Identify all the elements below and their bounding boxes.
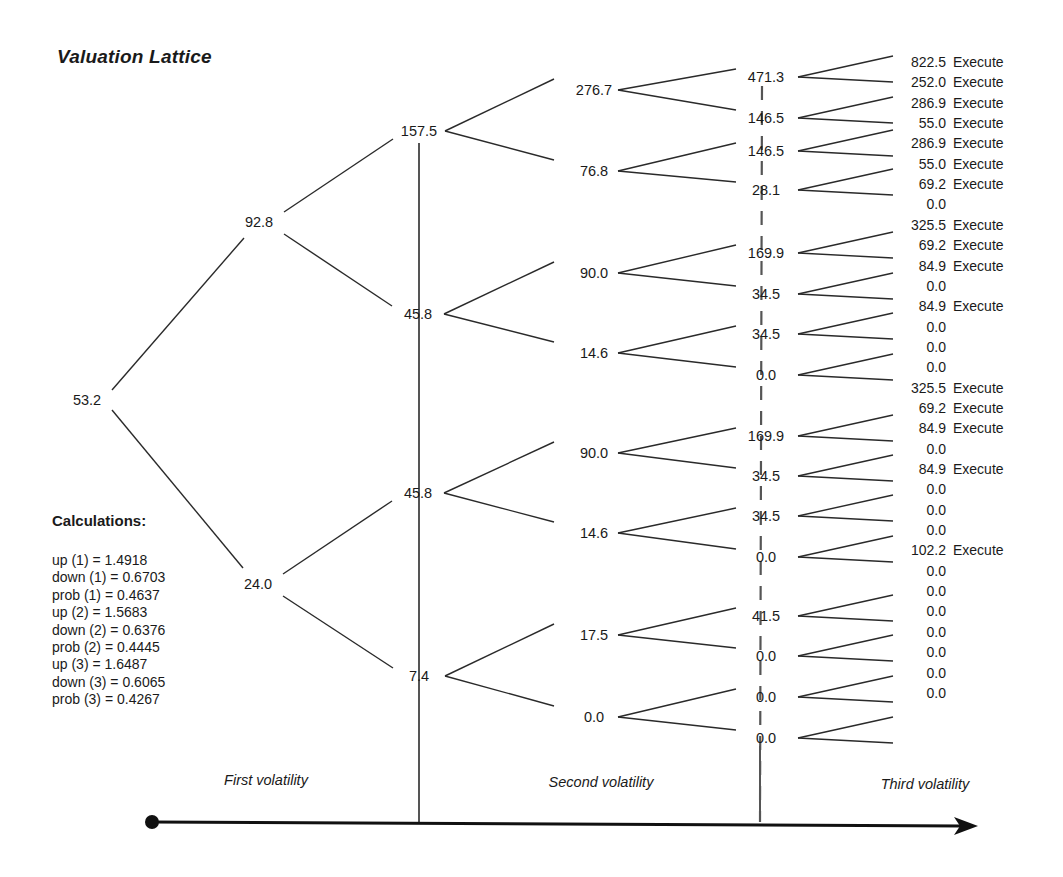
- lattice-edge: [798, 77, 893, 82]
- leaf-action-execute: Execute: [953, 237, 1004, 253]
- leaf-value: 0.0: [927, 196, 947, 212]
- lattice-edge: [798, 595, 893, 616]
- leaf-action-execute: Execute: [953, 156, 1004, 172]
- lattice-edge: [445, 79, 554, 131]
- lattice-edge: [798, 334, 893, 339]
- leaf-value: 84.9: [919, 298, 946, 314]
- lattice-node-level3: 14.6: [580, 345, 608, 361]
- leaf-value: 84.9: [919, 420, 946, 436]
- lattice-edge: [798, 232, 893, 253]
- lattice-edge: [618, 689, 736, 717]
- lattice-node-level2: 7.4: [409, 668, 429, 684]
- lattice-edge: [798, 415, 893, 436]
- leaf-value: 0.0: [927, 502, 947, 518]
- leaf-value: 0.0: [927, 624, 947, 640]
- leaf-action-execute: Execute: [953, 176, 1004, 192]
- leaf-value: 0.0: [927, 583, 947, 599]
- lattice-node-level3: 76.8: [580, 163, 608, 179]
- lattice-edge: [618, 428, 736, 453]
- leaf-value: 0.0: [927, 522, 947, 538]
- leaf-action-execute: Execute: [953, 115, 1004, 131]
- lattice-edge: [798, 354, 893, 375]
- timeline-axis: [145, 815, 978, 835]
- axis-label-first: First volatility: [224, 772, 309, 788]
- lattice-edge: [798, 676, 893, 697]
- lattice-edge: [798, 169, 893, 190]
- lattice-node-level4: 0.0: [756, 367, 776, 383]
- lattice-edge: [798, 118, 893, 123]
- leaf-value: 0.0: [927, 644, 947, 660]
- leaf-value: 55.0: [919, 156, 946, 172]
- leaf-value: 0.0: [927, 685, 947, 701]
- lattice-edge: [618, 717, 736, 730]
- lattice-edge: [798, 253, 893, 258]
- lattice-node-level3: 14.6: [580, 525, 608, 541]
- leaf-value: 325.5: [911, 380, 946, 396]
- lattice-edge: [618, 90, 736, 110]
- leaf-action-execute: Execute: [953, 420, 1004, 436]
- leaf-value: 84.9: [919, 461, 946, 477]
- lattice-node-level4: 169.9: [748, 428, 784, 444]
- leaf-action-execute: Execute: [953, 298, 1004, 314]
- lattice-edge: [618, 245, 736, 273]
- leaf-value: 0.0: [927, 278, 947, 294]
- lattice-edge: [798, 635, 893, 656]
- lattice-edge: [798, 616, 893, 621]
- lattice-node-level3: 0.0: [584, 709, 604, 725]
- leaf-value: 69.2: [919, 237, 946, 253]
- lattice-edge: [444, 262, 554, 314]
- lattice-node-level2: 45.8: [404, 306, 432, 322]
- lattice-edge: [283, 501, 392, 574]
- lattice-edge: [798, 313, 893, 334]
- leaf-value: 69.2: [919, 176, 946, 192]
- lattice-node-level4: 0.0: [756, 549, 776, 565]
- lattice-edge: [283, 596, 393, 668]
- lattice-edge: [444, 442, 554, 493]
- lattice-edge: [618, 508, 736, 533]
- lattice-edge: [618, 326, 736, 353]
- lattice-edge: [618, 273, 736, 286]
- leaf-value: 0.0: [927, 563, 947, 579]
- leaf-action-execute: Execute: [953, 542, 1004, 558]
- lattice-edge: [798, 294, 893, 299]
- lattice-edge: [798, 717, 893, 738]
- leaf-value: 55.0: [919, 115, 946, 131]
- lattice-edge: [618, 171, 736, 182]
- lattice-edge: [112, 410, 243, 568]
- lattice-node-level4: 0.0: [756, 689, 776, 705]
- lattice-edge: [798, 56, 893, 77]
- lattice-node-level4: 0.0: [756, 648, 776, 664]
- leaf-action-execute: Execute: [953, 54, 1004, 70]
- lattice-edge: [798, 455, 893, 476]
- lattice-node-level3: 90.0: [580, 265, 608, 281]
- lattice-node-level3: 17.5: [580, 627, 608, 643]
- lattice-edge: [445, 676, 554, 706]
- lattice-node-level4: 0.0: [756, 730, 776, 746]
- lattice-edge: [618, 353, 736, 367]
- lattice-node-level1: 24.0: [244, 576, 272, 592]
- lattice-node-level4: 34.5: [752, 508, 780, 524]
- lattice-edge: [112, 238, 244, 390]
- lattice-edge: [798, 273, 893, 294]
- lattice-node-level4: 34.5: [752, 326, 780, 342]
- lattice-edge: [618, 453, 736, 468]
- lattice-edge: [798, 495, 893, 516]
- lattice-node-level4: 34.5: [752, 468, 780, 484]
- lattice-edge: [618, 608, 736, 635]
- lattice-edge: [445, 131, 554, 160]
- leaf-value: 69.2: [919, 400, 946, 416]
- lattice-diagram: 53.292.824.0157.545.845.87.4276.776.890.…: [0, 0, 1063, 877]
- lattice-edge: [798, 516, 893, 521]
- lattice-edge: [798, 738, 893, 743]
- lattice-edge: [798, 130, 893, 151]
- lattice-edge: [798, 97, 893, 118]
- lattice-edge: [618, 533, 736, 549]
- lattice-edge: [798, 190, 893, 195]
- lattice-edge: [798, 557, 893, 562]
- lattice-node-level4: 41.5: [752, 608, 780, 624]
- lattice-edge: [284, 139, 393, 212]
- lattice-node-root: 53.2: [73, 392, 101, 408]
- lattice-node-level3: 90.0: [580, 445, 608, 461]
- timeline-line: [152, 822, 962, 826]
- leaf-value: 0.0: [927, 339, 947, 355]
